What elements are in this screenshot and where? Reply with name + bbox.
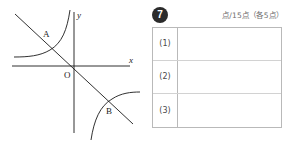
answer-panel: 7 点/15点（各5点） (1) (2) (3) <box>149 0 285 143</box>
score-note: 点/15点（各5点） <box>222 9 283 20</box>
coordinate-figure: y x O A B <box>0 0 145 143</box>
figure-svg: y x O A B <box>0 0 145 143</box>
table-row: (2) <box>153 61 281 94</box>
row-label-2: (2) <box>159 72 170 81</box>
hyperbola-lower-right-branch <box>91 92 140 140</box>
table-row: (3) <box>153 94 281 127</box>
row-label-cell-3: (3) <box>153 94 178 127</box>
worksheet-page: y x O A B 7 点/15点（各5点） (1) (2) <box>0 0 285 143</box>
answer-header: 7 点/15点（各5点） <box>149 6 285 26</box>
y-axis-label: y <box>76 10 81 20</box>
row-label-1: (1) <box>159 39 170 48</box>
hyperbola-upper-left-branch <box>14 10 70 57</box>
answer-cell-3[interactable] <box>178 94 281 127</box>
row-label-cell-1: (1) <box>153 28 178 60</box>
x-axis-label: x <box>128 55 133 65</box>
row-label-cell-2: (2) <box>153 61 178 93</box>
answer-cell-2[interactable] <box>178 61 281 93</box>
answer-table: (1) (2) (3) <box>152 27 282 128</box>
point-label-b: B <box>106 106 112 116</box>
origin-label: O <box>64 70 71 80</box>
answer-cell-1[interactable] <box>178 28 281 60</box>
row-label-3: (3) <box>159 106 170 115</box>
question-number-badge: 7 <box>152 7 168 23</box>
point-label-a: A <box>43 29 50 39</box>
table-row: (1) <box>153 28 281 61</box>
